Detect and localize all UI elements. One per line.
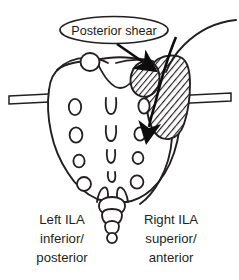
figure-canvas: Posterior shear Left ILA inferior/ poste… xyxy=(0,0,239,280)
posterior-shear-label: Posterior shear xyxy=(71,24,156,38)
left-ila-line-3: posterior xyxy=(36,250,88,265)
psis-hatched-oval xyxy=(131,61,160,96)
right-ila-line-2: superior/ xyxy=(145,231,197,246)
left-ila-line-2: inferior/ xyxy=(40,231,84,246)
posterior-shear-callout[interactable]: Posterior shear xyxy=(60,17,168,44)
sacral-tubercle-circle xyxy=(81,53,100,71)
sacrum-posterior-shear-figure: Posterior shear Left ILA inferior/ poste… xyxy=(0,0,239,280)
right-ila-line-3: anterior xyxy=(149,250,194,265)
right-ila-label: Right ILA superior/ anterior xyxy=(144,212,198,265)
left-ila-label: Left ILA inferior/ posterior xyxy=(36,212,88,265)
left-ila-line-1: Left ILA xyxy=(39,212,85,227)
right-ila-line-1: Right ILA xyxy=(144,212,198,227)
